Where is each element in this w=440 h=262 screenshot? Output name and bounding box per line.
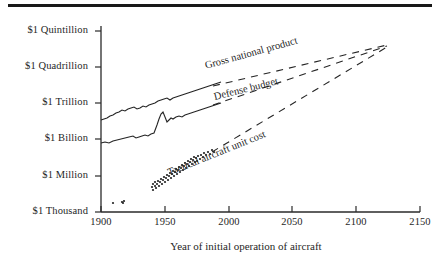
x-tick-label-1900: 1900 (79, 216, 123, 227)
y-tick-label-thousand: $1 Thousand (2, 205, 88, 216)
y-tick-label-quintillion: $1 Quintillion (2, 24, 88, 35)
y-tick-label-million: $1 Million (2, 169, 88, 180)
x-tick-label-2050: 2050 (270, 216, 314, 227)
y-tick-label-billion: $1 Billion (2, 132, 88, 143)
x-tick-label-2000: 2000 (207, 216, 251, 227)
x-tick-marks (101, 206, 420, 212)
y-tick-label-quadrillion: $1 Quadrillion (2, 60, 88, 71)
chart-figure: $1 Quintillion $1 Quadrillion $1 Trillio… (0, 0, 440, 262)
series-tactical-projection (212, 47, 387, 152)
series-tactical-early-outliers (112, 200, 125, 204)
series-defense-historical (101, 103, 221, 143)
x-tick-label-2100: 2100 (334, 216, 378, 227)
y-tick-label-trillion: $1 Trillion (2, 96, 88, 107)
x-axis-title: Year of initial operation of aircraft (101, 240, 391, 252)
plot-area: $1 Quintillion $1 Quadrillion $1 Trillio… (0, 0, 440, 262)
x-tick-label-1950: 1950 (143, 216, 187, 227)
x-tick-label-2150: 2150 (398, 216, 440, 227)
y-tick-marks (95, 31, 101, 212)
